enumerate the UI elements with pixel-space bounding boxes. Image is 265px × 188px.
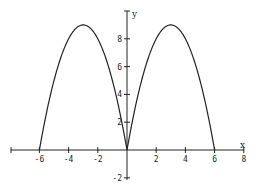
x-tick-label: -2: [93, 155, 103, 164]
y-tick-label: -2: [112, 174, 122, 183]
y-tick-label: 4: [117, 90, 122, 99]
x-tick-label: 6: [212, 155, 217, 164]
x-tick-label: -6: [35, 155, 45, 164]
y-tick-label: 6: [117, 63, 122, 72]
x-tick-label: 8: [241, 155, 246, 164]
y-axis-label: y: [131, 9, 138, 19]
x-tick-label: 2: [154, 155, 159, 164]
x-tick-label: 4: [183, 155, 188, 164]
y-tick-label: 8: [117, 35, 122, 44]
chart: x y -6-4-22468 -22468: [0, 0, 265, 188]
x-tick-label: -4: [64, 155, 74, 164]
x-axis-label: x: [240, 140, 245, 150]
